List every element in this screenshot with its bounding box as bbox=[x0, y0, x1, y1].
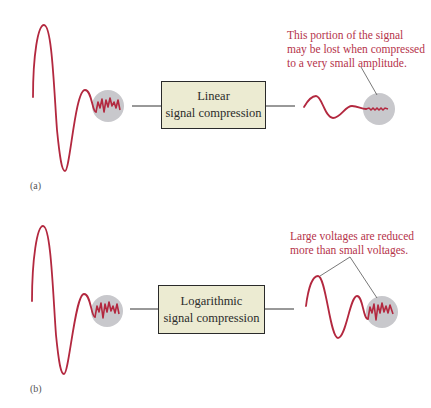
annotation-b-line1: Large voltages are reduced bbox=[290, 229, 414, 243]
block-label-line1: Linear bbox=[197, 88, 230, 105]
logarithmic-compression-block: Logarithmic signal compression bbox=[158, 285, 265, 334]
panel-label-b: (b) bbox=[30, 383, 42, 394]
input-signal-a bbox=[33, 25, 96, 171]
annotation-a-line3: to a very small amplitude. bbox=[287, 56, 425, 70]
annotation-a-line1: This portion of the signal bbox=[287, 28, 425, 42]
block-label-line1: Logarithmic bbox=[181, 293, 243, 310]
block-label-line2: signal compression bbox=[163, 310, 259, 327]
panel-label-a: (a) bbox=[30, 180, 41, 191]
output-signal-a bbox=[304, 96, 366, 118]
annotation-pointer-b bbox=[320, 257, 377, 298]
annotation-b: Large voltages are reduced more than sma… bbox=[290, 229, 414, 257]
annotation-b-line2: more than small voltages. bbox=[290, 243, 414, 257]
block-label-line2: signal compression bbox=[165, 105, 261, 122]
output-signal-b bbox=[306, 276, 368, 338]
highlight-circle-output-b bbox=[366, 296, 398, 328]
linear-compression-block: Linear signal compression bbox=[161, 81, 266, 129]
annotation-a: This portion of the signal may be lost w… bbox=[287, 28, 425, 70]
annotation-pointer-a bbox=[361, 67, 377, 95]
input-signal-b bbox=[32, 226, 95, 374]
annotation-a-line2: may be lost when compressed bbox=[287, 42, 425, 56]
